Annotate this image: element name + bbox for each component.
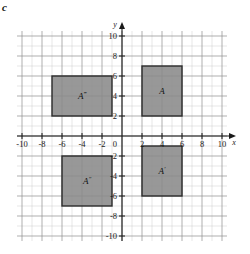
coordinate-grid-plot: -10-8-6-4-20246810-10-8-6-4-2246810 AA′A… [0,0,250,254]
x-tick-label--8: -8 [38,139,45,149]
y-tick-label-6: 6 [113,71,117,81]
coordinate-plane-figure: c -10-8-6-4-20246810-10-8-6-4-2246810 AA… [0,0,250,254]
y-tick-label--2: -2 [110,151,117,161]
x-tick-label-10: 10 [218,139,227,149]
y-tick-label-2: 2 [113,111,117,121]
x-axis-name: x [231,138,236,147]
x-tick-label--2: -2 [98,139,105,149]
y-axis-name: y [112,20,117,29]
y-tick-label-10: 10 [109,31,118,41]
y-tick-label--8: -8 [110,211,117,221]
y-tick-label--4: -4 [110,171,118,181]
x-tick-label--6: -6 [58,139,65,149]
y-tick-label-8: 8 [113,51,117,61]
axes [17,22,236,241]
x-tick-label-2: 2 [140,139,144,149]
x-tick-label--10: -10 [16,139,27,149]
y-tick-label--6: -6 [110,191,117,201]
y-tick-label--10: -10 [106,231,117,241]
shape-label-A: A [158,86,165,96]
x-tick-label--4: -4 [78,139,86,149]
x-tick-label-6: 6 [180,139,184,149]
x-tick-label-8: 8 [200,139,204,149]
x-tick-label-0: 0 [113,139,117,149]
